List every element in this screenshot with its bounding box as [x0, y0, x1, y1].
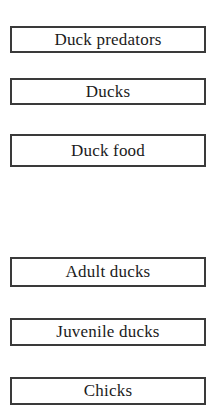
node-box-ducks[interactable]: Ducks [10, 78, 206, 105]
diagram-canvas: Duck predators Ducks Duck food Adult duc… [0, 0, 216, 420]
node-label-chicks: Chicks [84, 382, 132, 400]
group-separator [0, 167, 216, 257]
node-label-duck-food: Duck food [71, 142, 145, 160]
node-label-duck-predators: Duck predators [54, 31, 161, 49]
node-box-adult-ducks[interactable]: Adult ducks [10, 257, 206, 287]
node-label-juvenile-ducks: Juvenile ducks [56, 323, 159, 341]
node-box-duck-food[interactable]: Duck food [10, 134, 206, 167]
node-label-ducks: Ducks [86, 83, 130, 101]
node-box-juvenile-ducks[interactable]: Juvenile ducks [10, 318, 206, 346]
node-box-chicks[interactable]: Chicks [10, 377, 206, 405]
node-label-adult-ducks: Adult ducks [66, 263, 151, 281]
node-box-duck-predators[interactable]: Duck predators [10, 26, 206, 53]
